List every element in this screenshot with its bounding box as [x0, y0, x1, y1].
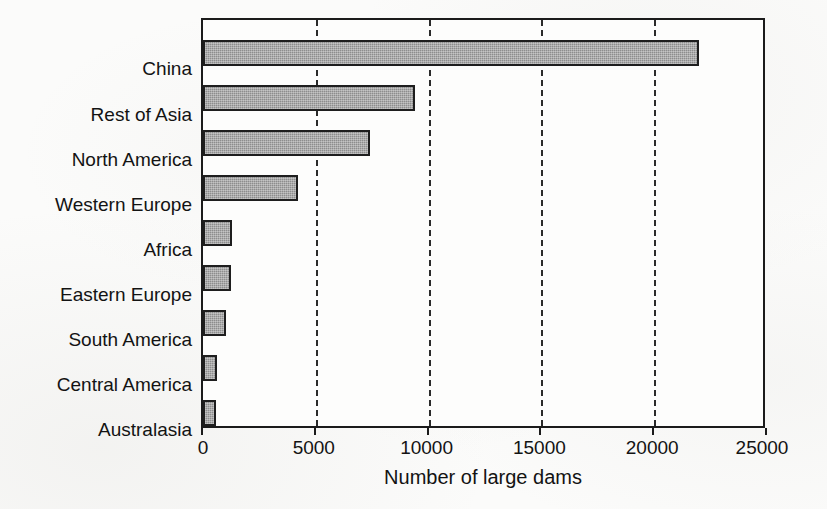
gridline-20000	[654, 20, 656, 426]
tick-mark-20000	[652, 428, 654, 435]
bar-row-north-america	[203, 130, 370, 156]
tick-label-15000: 15000	[513, 437, 566, 459]
tick-mark-0	[201, 428, 203, 435]
bar-eastern-europe	[203, 265, 231, 291]
tick-mark-25000	[765, 428, 767, 435]
tick-label-25000: 25000	[736, 437, 789, 459]
bar-china	[203, 40, 699, 66]
y-axis-label-rest-of-asia: Rest of Asia	[9, 104, 201, 126]
tick-label-10000: 10000	[400, 437, 453, 459]
bar-row-eastern-europe	[203, 265, 231, 291]
tick-label-20000: 20000	[626, 437, 679, 459]
y-axis-label-western-europe: Western Europe	[9, 194, 201, 216]
plot-area	[201, 18, 765, 428]
gridline-15000	[541, 20, 543, 426]
bar-row-rest-of-asia	[203, 85, 415, 111]
y-axis-label-north-america: North America	[9, 149, 201, 171]
tick-mark-15000	[539, 428, 541, 435]
tick-mark-10000	[427, 428, 429, 435]
bar-row-china	[203, 40, 699, 66]
y-axis-label-eastern-europe: Eastern Europe	[9, 284, 201, 306]
bar-north-america	[203, 130, 370, 156]
x-axis-title: Number of large dams	[201, 466, 765, 489]
y-axis-label-china: China	[9, 58, 201, 80]
bar-row-australasia	[203, 400, 216, 426]
y-axis-label-south-america: South America	[9, 329, 201, 351]
tick-label-5000: 5000	[293, 437, 335, 459]
gridline-5000	[316, 20, 318, 426]
tick-label-0: 0	[198, 437, 209, 459]
y-axis-label-africa: Africa	[9, 239, 201, 261]
y-axis-category-labels: China Rest of Asia North America Western…	[0, 18, 201, 428]
bar-chart-figure: China Rest of Asia North America Western…	[0, 0, 827, 509]
bar-australasia	[203, 400, 216, 426]
bar-africa	[203, 220, 232, 246]
bar-row-western-europe	[203, 175, 298, 201]
bar-rest-of-asia	[203, 85, 415, 111]
bar-central-america	[203, 355, 217, 381]
tick-mark-5000	[314, 428, 316, 435]
y-axis-label-australasia: Australasia	[9, 419, 201, 441]
bar-row-africa	[203, 220, 232, 246]
bar-row-central-america	[203, 355, 217, 381]
bar-south-america	[203, 310, 226, 336]
y-axis-label-central-america: Central America	[9, 374, 201, 396]
bar-western-europe	[203, 175, 298, 201]
gridline-10000	[429, 20, 431, 426]
bar-row-south-america	[203, 310, 226, 336]
